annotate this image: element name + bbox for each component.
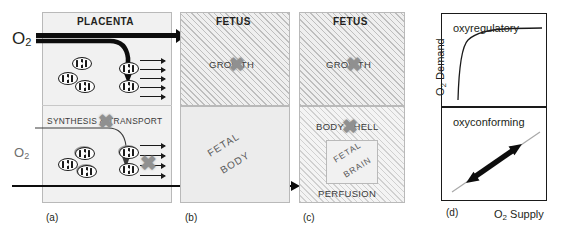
- blocker-x-growth-c-icon: ✖: [344, 55, 364, 74]
- erythrocyte-glyph: [75, 80, 95, 93]
- o2-outflow-arrow: [140, 145, 165, 146]
- blocker-x-body-shell-icon: ✖: [340, 117, 360, 136]
- o2-label-bottom: O2: [14, 146, 29, 161]
- figure-root: PLACENTA O2 O2 SYNTHESIS & TRANSPORT ✖: [0, 0, 566, 236]
- blocker-x-outflow-icon: ✖: [137, 153, 159, 173]
- panel-c-title: FETUS: [333, 17, 368, 27]
- o2-outflow-arrow: [140, 87, 165, 88]
- double-headed-arrow: [466, 144, 522, 183]
- panel-a-tag: (a): [46, 213, 58, 223]
- o2-label-top: O2: [12, 30, 31, 48]
- panel-a-divider: [42, 105, 172, 106]
- erythrocyte-glyph: [119, 62, 139, 75]
- panel-a-title: PLACENTA: [77, 17, 134, 27]
- panel-c-perfusion-label: PERFUSION: [318, 189, 376, 199]
- o2-outflow-arrow: [140, 60, 165, 61]
- erythrocyte-glyph: [119, 163, 139, 176]
- panel-c-tag: (c): [303, 213, 315, 223]
- blocker-x-growth-b-icon: ✖: [227, 55, 247, 74]
- panel-d-tag: (d): [446, 208, 458, 218]
- erythrocyte-glyph: [77, 165, 97, 178]
- erythrocyte-glyph: [119, 80, 139, 93]
- o2-outflow-arrow: [140, 96, 165, 97]
- erythrocyte-glyph: [119, 146, 139, 159]
- panel-b-title: FETUS: [216, 17, 251, 27]
- panel-d-oxyregulatory-label: oxyregulatory: [453, 23, 519, 34]
- panel-d-y-axis-label: O2 Demand: [434, 38, 448, 96]
- o2-outflow-arrow: [140, 78, 165, 79]
- panel-d-x-axis-label: O2 Supply: [494, 208, 544, 222]
- erythrocyte-glyph: [72, 57, 92, 70]
- erythrocyte-glyph: [58, 158, 78, 171]
- panel-b-tag: (b): [185, 213, 197, 223]
- o2-outflow-arrow: [140, 175, 165, 176]
- blocker-x-synthesis-icon: ✖: [96, 112, 116, 131]
- panel-d-oxyconforming-label: oxyconforming: [453, 117, 525, 128]
- o2-outflow-arrow: [140, 69, 165, 70]
- erythrocyte-glyph: [75, 147, 95, 160]
- o2-branch-curve: [34, 36, 154, 88]
